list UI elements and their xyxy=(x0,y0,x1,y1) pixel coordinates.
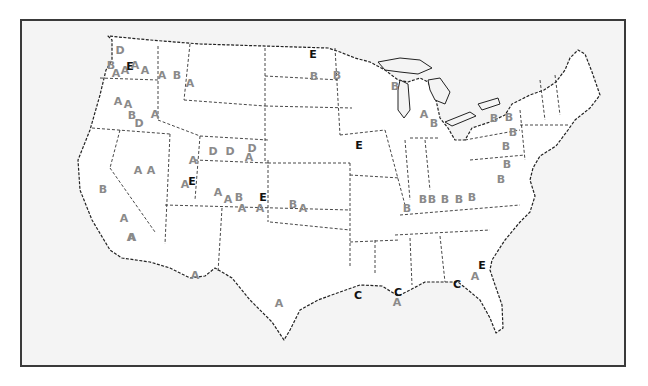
map-label-b: B xyxy=(505,112,513,123)
map-label-a: A xyxy=(224,194,233,205)
map-label-a: A xyxy=(114,96,123,107)
map-label-a: A xyxy=(471,271,480,282)
map-label-a: A xyxy=(120,213,129,224)
us-states-map xyxy=(0,0,648,386)
map-label-b: B xyxy=(310,71,318,82)
map-label-a: A xyxy=(393,297,402,308)
map-label-a: A xyxy=(112,68,121,79)
map-label-a: A xyxy=(134,165,143,176)
map-label-b: B xyxy=(99,184,107,195)
lake-erie xyxy=(445,112,476,126)
map-label-a: A xyxy=(238,203,247,214)
map-label-c: C xyxy=(453,279,461,290)
map-label-b: B xyxy=(468,192,476,203)
map-label-b: B xyxy=(490,113,498,124)
map-label-b: B xyxy=(428,194,436,205)
map-label-b: B xyxy=(502,141,510,152)
map-label-a: A xyxy=(245,152,254,163)
map-label-a: A xyxy=(214,187,223,198)
map-label-a: A xyxy=(189,155,198,166)
map-label-b: B xyxy=(391,81,399,92)
map-label-b: B xyxy=(441,194,449,205)
map-label-c: C xyxy=(354,290,362,301)
map-label-a: A xyxy=(420,109,429,120)
map-label-a: A xyxy=(151,109,160,120)
map-label-a: A xyxy=(141,65,150,76)
map-label-d: D xyxy=(225,146,234,157)
map-label-b: B xyxy=(333,70,341,81)
map-label-e: E xyxy=(309,49,317,60)
map-label-a: A xyxy=(191,270,200,281)
lake-michigan xyxy=(398,80,410,118)
map-label-a: A xyxy=(275,298,284,309)
map-label-b: B xyxy=(173,70,181,81)
map-label-e: E xyxy=(188,176,196,187)
map-label-d: D xyxy=(115,45,124,56)
map-label-a: A xyxy=(256,203,265,214)
map-label-b: B xyxy=(503,159,511,170)
map-label-b: B xyxy=(497,174,505,185)
map-label-a: A xyxy=(186,78,195,89)
map-label-b: B xyxy=(403,203,411,214)
map-label-a: A xyxy=(127,232,136,243)
map-label-b: B xyxy=(419,194,427,205)
map-label-e: E xyxy=(355,140,363,151)
map-label-d: D xyxy=(208,146,217,157)
map-label-a: A xyxy=(299,203,308,214)
map-label-a: A xyxy=(147,165,156,176)
map-label-b: B xyxy=(509,127,517,138)
map-label-a: A xyxy=(131,60,140,71)
map-label-b: B xyxy=(455,194,463,205)
lake-ontario xyxy=(478,98,500,110)
us-outline xyxy=(78,36,600,340)
map-label-b: B xyxy=(430,118,438,129)
map-label-b: B xyxy=(289,199,297,210)
map-label-a: A xyxy=(158,70,167,81)
map-label-e: E xyxy=(478,260,486,271)
map-label-d: D xyxy=(134,118,143,129)
